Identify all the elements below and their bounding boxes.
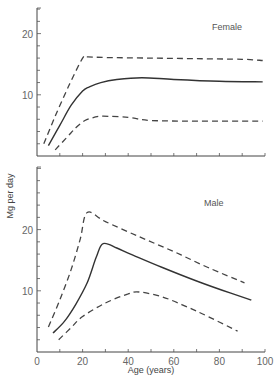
y-tick-label: 10 (22, 286, 34, 297)
male-mean-line (53, 243, 251, 333)
male-upper-limit-line (48, 212, 244, 327)
female-lower-limit-line (55, 116, 263, 150)
y-tick-label: 10 (22, 90, 34, 101)
male-series (48, 212, 251, 340)
x-tick-label: 0 (34, 356, 40, 367)
x-axis-label: Age (years) (128, 365, 175, 375)
female-panel: 1020 Female (22, 8, 265, 156)
y-tick-label: 20 (22, 225, 34, 236)
male-axes: 1020020406080100 (22, 167, 274, 367)
female-upper-limit-line (44, 56, 263, 144)
x-tick-label: 80 (214, 356, 226, 367)
chart: 1020 Female 1020020406080100 Male Mg per… (0, 0, 280, 382)
male-axis-lines (37, 167, 265, 352)
male-label: Male (204, 198, 224, 208)
y-tick-label: 20 (22, 29, 34, 40)
female-series (44, 56, 263, 150)
y-axis-label: Mg per day (5, 173, 15, 219)
x-tick-label: 100 (257, 356, 274, 367)
male-panel: 1020020406080100 Male (22, 167, 274, 367)
x-tick-label: 20 (77, 356, 89, 367)
female-mean-line (48, 78, 262, 146)
female-label: Female (212, 22, 242, 32)
male-lower-limit-line (59, 292, 238, 340)
